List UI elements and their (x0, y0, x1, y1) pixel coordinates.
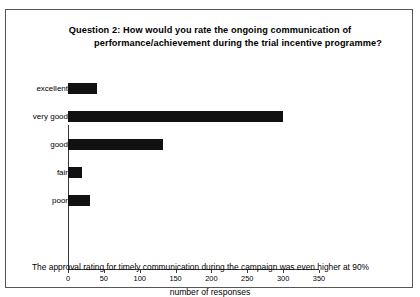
x-tick-label: 350 (304, 274, 334, 283)
bar (68, 111, 283, 122)
figure-caption: The approval rating for timely communica… (32, 261, 400, 273)
bar (68, 167, 82, 178)
chart-title-line-2: performance/achievement during the trial… (6, 37, 414, 50)
x-tick-label: 300 (268, 274, 298, 283)
x-tick-label: 50 (89, 274, 119, 283)
bar-chart-plot-area: excellentvery goodgoodfairpoor 050100150… (6, 65, 414, 225)
x-tick-label: 150 (161, 274, 191, 283)
x-tick-label: 0 (53, 274, 83, 283)
category-label: poor (0, 196, 68, 206)
chart-title: Question 2: How would you rate the ongoi… (6, 24, 414, 50)
category-label: very good (0, 112, 68, 122)
chart-title-line-1: Question 2: How would you rate the ongoi… (69, 25, 352, 35)
x-tick-label: 200 (196, 274, 226, 283)
category-label: good (0, 140, 68, 150)
bar (68, 83, 97, 94)
bar (68, 195, 90, 206)
x-axis-title: number of responses (6, 287, 414, 297)
category-label: fair (0, 168, 68, 178)
figure-frame: Question 2: How would you rate the ongoi… (5, 9, 413, 288)
x-tick-label: 100 (125, 274, 155, 283)
category-label: excellent (0, 84, 68, 94)
bar (68, 139, 163, 150)
x-tick-label: 250 (232, 274, 262, 283)
